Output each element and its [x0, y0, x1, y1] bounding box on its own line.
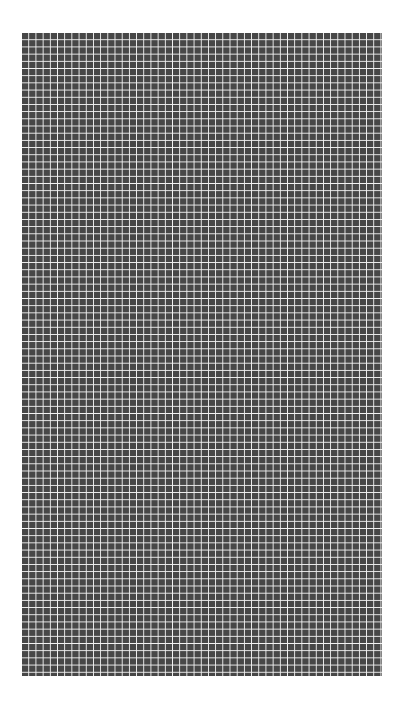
square-grid-pattern [22, 33, 382, 676]
